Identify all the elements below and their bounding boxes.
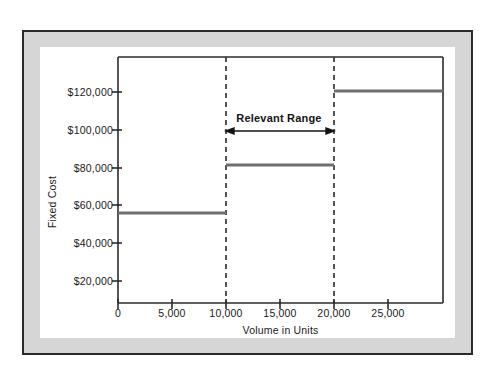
x-tick-label-15000: 15,000 xyxy=(263,307,296,319)
x-tick-label-20000: 20,000 xyxy=(317,307,350,319)
axis-lines xyxy=(118,57,443,303)
y-tick-label-120000: $120,000 xyxy=(68,86,113,98)
relevant-range-arrow xyxy=(226,128,334,134)
x-tick-label-5000: 5,000 xyxy=(158,307,185,319)
relevant-range-boundaries xyxy=(226,57,334,303)
x-tick-label-10000: 10,000 xyxy=(209,307,242,319)
x-tick-label-0: 0 xyxy=(115,307,121,319)
x-axis-title: Volume in Units xyxy=(118,324,443,336)
y-tick-label-100000: $100,000 xyxy=(68,124,113,136)
relevant-range-annotation-label: Relevant Range xyxy=(225,112,333,124)
x-axis-tick-label-group: 0 5,000 10,000 15,000 20,000 25,000 xyxy=(0,307,494,323)
y-tick-label-80000: $80,000 xyxy=(74,162,113,174)
y-axis-title: Fixed Cost xyxy=(46,164,58,240)
y-tick-label-60000: $60,000 xyxy=(74,199,113,211)
fixed-cost-step-series xyxy=(118,91,443,213)
x-tick-label-25000: 25,000 xyxy=(371,307,404,319)
y-tick-label-40000: $40,000 xyxy=(74,237,113,249)
y-axis-ticks xyxy=(112,92,122,281)
y-tick-label-20000: $20,000 xyxy=(74,275,113,287)
